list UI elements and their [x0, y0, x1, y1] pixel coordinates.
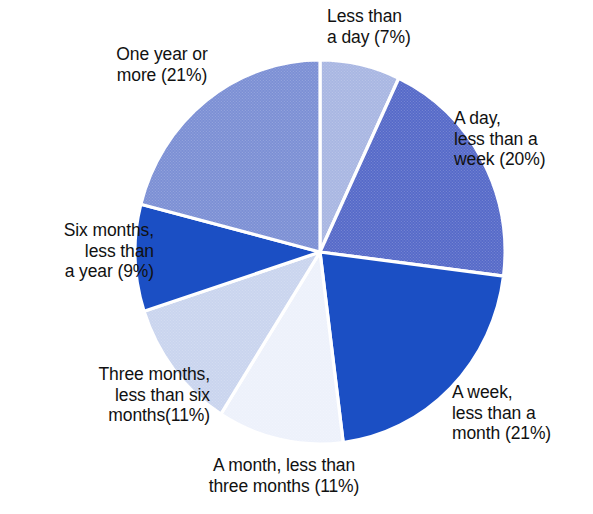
slice-label-less-than-a-day: Less than a day (7%) [327, 6, 477, 47]
slice-label-six-months-less-than-a-year: Six months, less than a year (9%) [6, 220, 154, 282]
slice-label-a-month-less-than-three-months: A month, less than three months (11%) [168, 455, 400, 496]
pie-chart-page: Less than a day (7%) A day, less than a … [0, 0, 593, 514]
slice-label-a-week-less-than-a-month: A week, less than a month (21%) [452, 382, 592, 444]
slice-label-three-months-less-than-six-months: Three months, less than six months(11%) [30, 364, 210, 426]
slice-label-a-day-less-than-a-week: A day, less than a week (20%) [454, 108, 593, 170]
slice-label-one-year-or-more: One year or more (21%) [72, 44, 252, 85]
